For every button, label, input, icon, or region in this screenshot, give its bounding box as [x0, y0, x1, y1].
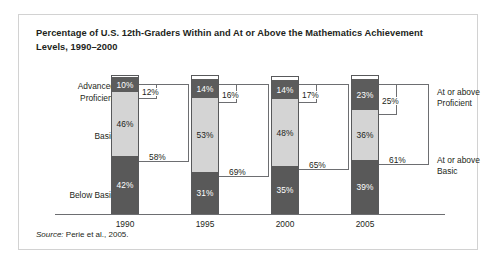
- bar-1990-segment-basic: 46%: [111, 92, 139, 156]
- bar-2005-proficient-value: 23%: [352, 91, 378, 99]
- bar-1995-segment-basic: 53%: [191, 98, 219, 172]
- bar-1995-segment-below-basic: 31%: [191, 172, 219, 215]
- bar-1990-below-basic-value: 42%: [112, 181, 138, 189]
- bar-2000-segment-below-basic: 35%: [271, 166, 299, 215]
- source-note: Source: Perie et al., 2005.: [36, 230, 129, 239]
- bar-2000[interactable]: 14% 48% 35%: [271, 76, 299, 215]
- bar-2005-segment-basic: 36%: [351, 110, 379, 160]
- bar-1995-segment-proficient: 14%: [191, 79, 219, 98]
- plot-area: Advanced Proficient Basic Below Basic 1%…: [19, 15, 479, 251]
- bar-2000-proficient-value: 14%: [272, 86, 298, 94]
- side-note-proficient-line1: At or above: [437, 87, 480, 98]
- bracket-2000-basic: [299, 84, 349, 170]
- side-note-at-or-above-basic: At or above Basic: [437, 155, 480, 176]
- category-label-below-basic: Below Basic: [69, 190, 115, 201]
- x-axis-tick-1990: 1990: [105, 219, 145, 229]
- bar-1990-proficient-value: 10%: [112, 81, 138, 89]
- bar-1990-basic-value: 46%: [112, 120, 138, 128]
- bar-1995-below-basic-value: 31%: [192, 189, 218, 197]
- bar-1990-segment-below-basic: 42%: [111, 156, 139, 215]
- bar-2005-segment-below-basic: 39%: [351, 160, 379, 215]
- bracket-1990-basic: [139, 84, 189, 162]
- x-axis-line: [55, 214, 445, 215]
- bracket-1995-basic-value: 69%: [228, 168, 247, 176]
- bar-2005-basic-value: 36%: [352, 131, 378, 139]
- figure-panel: Percentage of U.S. 12th-Graders Within a…: [18, 14, 478, 250]
- category-label-advanced: Advanced: [78, 81, 115, 92]
- bracket-1995-basic: [219, 84, 269, 177]
- source-citation: Perie et al., 2005.: [64, 230, 129, 239]
- category-label-column: Advanced Proficient Basic Below Basic: [29, 15, 115, 251]
- category-label-proficient: Proficient: [80, 93, 115, 104]
- bar-2000-segment-basic: 48%: [271, 99, 299, 166]
- bracket-2000-basic-value: 65%: [308, 161, 327, 169]
- bar-1995-basic-value: 53%: [192, 131, 218, 139]
- bar-1990-segment-proficient: 10%: [111, 77, 139, 92]
- bar-2000-below-basic-value: 35%: [272, 186, 298, 194]
- bracket-2005-basic-value: 61%: [388, 156, 407, 164]
- bracket-1990-basic-value: 58%: [148, 153, 167, 161]
- side-note-at-or-above-proficient: At or above Proficient: [437, 87, 480, 108]
- side-note-basic-line2: Basic: [437, 166, 480, 177]
- side-note-proficient-line2: Proficient: [437, 98, 480, 109]
- bar-2005-below-basic-value: 39%: [352, 183, 378, 191]
- bar-1995[interactable]: 14% 53% 31%: [191, 75, 219, 215]
- side-note-basic-line1: At or above: [437, 155, 480, 166]
- bar-2005-segment-proficient: 23%: [351, 79, 379, 110]
- bar-1990[interactable]: 10% 46% 42%: [111, 75, 139, 215]
- bar-1995-proficient-value: 14%: [192, 85, 218, 93]
- bar-2005[interactable]: 23% 36% 39%: [351, 75, 379, 215]
- x-axis-tick-2000: 2000: [265, 219, 305, 229]
- source-label: Source:: [36, 230, 64, 239]
- bracket-2005-basic: [379, 84, 429, 165]
- bar-2000-segment-proficient: 14%: [271, 80, 299, 99]
- bar-2000-basic-value: 48%: [272, 129, 298, 137]
- x-axis-tick-1995: 1995: [185, 219, 225, 229]
- x-axis-tick-2005: 2005: [345, 219, 385, 229]
